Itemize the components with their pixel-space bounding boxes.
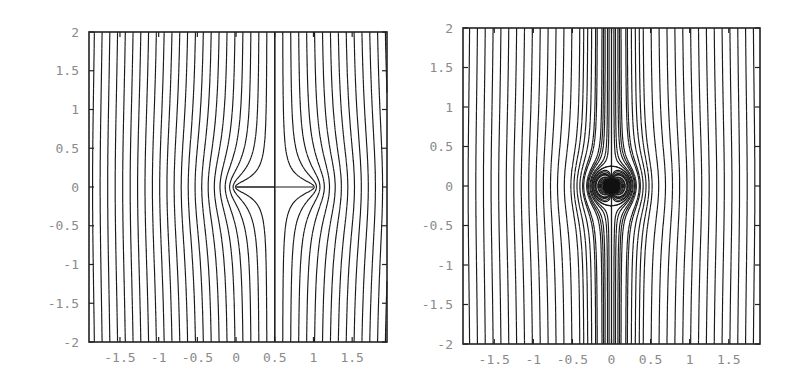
y-tick-label: -1.5 [422,297,453,312]
x-tick-label: 1 [686,352,694,367]
doublet-flow-streamline-plot: -1.5-1-0.500.511.521.510.50-0.5-1-1.5-2 [0,0,795,384]
streamline [484,28,486,344]
y-tick-label: -0.5 [422,218,453,233]
x-tick-label: -1 [526,352,542,367]
doublet-core [603,178,621,194]
x-tick-label: 0.5 [639,352,662,367]
y-tick-label: 1 [445,100,453,115]
right-plot-panel: -1.5-1-0.500.511.521.510.50-0.5-1-1.5-2 [0,0,795,384]
streamline [722,28,724,344]
y-tick-label: -2 [437,337,453,352]
y-tick-label: 0 [445,179,453,194]
streamline [499,28,501,344]
x-tick-label: 1.5 [717,352,740,367]
y-tick-label: 0.5 [430,139,453,154]
y-tick-label: 1.5 [430,60,453,75]
y-tick-label: -1 [437,258,453,273]
x-tick-label: -1.5 [479,352,510,367]
y-tick-label: 2 [445,21,453,36]
x-tick-label: -0.5 [557,352,588,367]
x-tick-label: 0 [608,352,616,367]
streamline [738,28,740,344]
streamline [730,28,732,344]
streamline [491,28,493,344]
